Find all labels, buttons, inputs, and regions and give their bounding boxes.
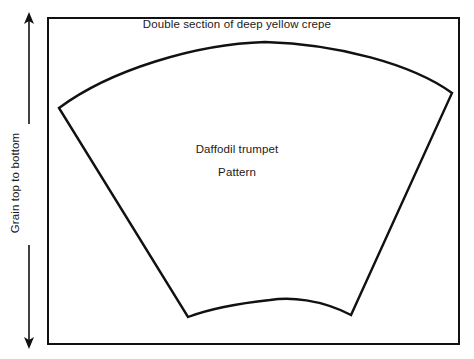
pattern-diagram-svg	[0, 0, 474, 359]
fabric-caption: Double section of deep yellow crepe	[0, 18, 474, 30]
pattern-diagram-canvas: Double section of deep yellow crepe Daff…	[0, 0, 474, 359]
pattern-title-line-2: Pattern	[0, 166, 474, 178]
pattern-title-line-1: Daffodil trumpet	[0, 143, 474, 155]
grain-direction-label: Grain top to bottom	[9, 123, 21, 243]
